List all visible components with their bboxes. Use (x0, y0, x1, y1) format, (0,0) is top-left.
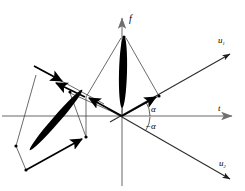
vector-left-inner (89, 98, 122, 116)
vector-diagram-figure: f t u1 u2 α −α (0, 0, 245, 191)
vertical-lens (118, 36, 128, 108)
vector-left-top (34, 66, 62, 81)
dot-lower-right (84, 135, 87, 138)
u2-axis-label-sub: 2 (224, 164, 227, 169)
line-lenstop-leftnode (86, 38, 121, 97)
vector-arrows-group (26, 66, 156, 170)
u1-axis-label-sub: 1 (223, 41, 225, 46)
labels-group: f t u1 u2 α −α (129, 13, 227, 169)
line-lenstop-u1point (126, 38, 159, 96)
diagram-canvas: f t u1 u2 α −α (0, 0, 245, 191)
alpha-positive-label: α (151, 104, 156, 114)
alpha-positive-arc (146, 102, 150, 116)
dot-lower-node (24, 168, 27, 171)
dot-left-node-a (68, 90, 71, 93)
dot-u1-point (157, 94, 160, 97)
u2-axis-line (108, 109, 230, 179)
construction-lines-group (16, 37, 159, 170)
line-lowerleft-node (16, 146, 26, 170)
dot-lens-top (122, 35, 125, 38)
alpha-negative-label: −α (145, 121, 156, 131)
t-axis-label: t (218, 103, 221, 113)
line-lefttip-extend (16, 75, 36, 146)
f-axis-label: f (129, 13, 133, 24)
u1-axis-label: u1 (218, 35, 225, 46)
u2-axis-label: u2 (219, 158, 227, 169)
dot-lower-left (14, 144, 17, 147)
node-dots-group (14, 35, 160, 171)
